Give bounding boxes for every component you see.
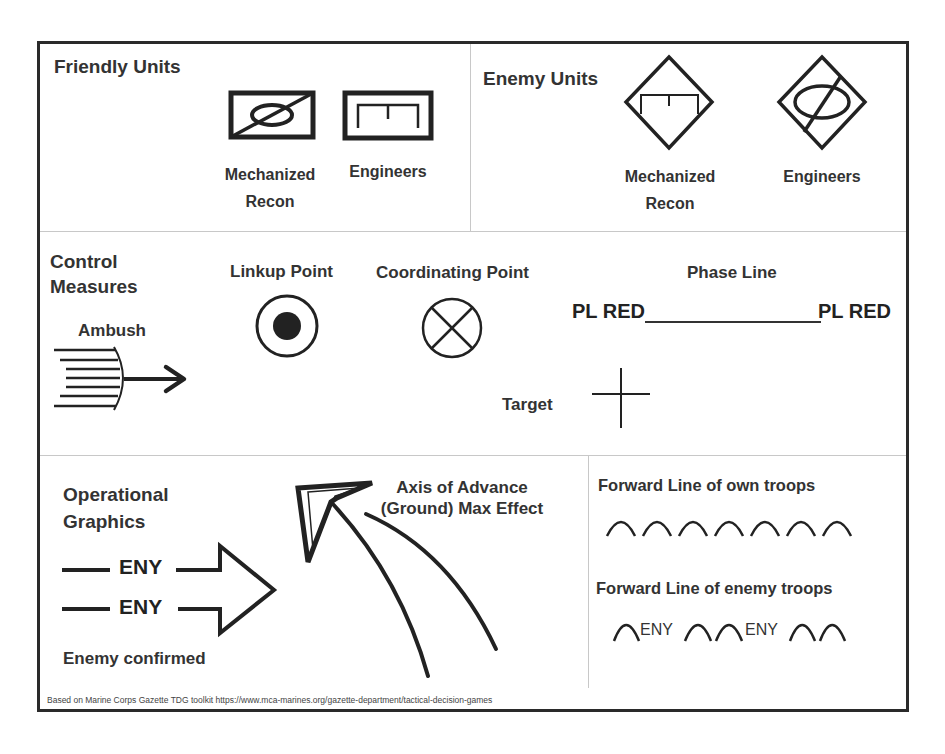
friendly-mech-recon-label-1: Mechanized — [208, 163, 332, 186]
control-measures-heading-2: Measures — [50, 275, 138, 298]
enemy-mech-recon-label-2: Recon — [608, 192, 732, 215]
flot-enemy-label: Forward Line of enemy troops — [596, 577, 833, 600]
axis-of-advance-label-1: Axis of Advance — [362, 476, 562, 499]
enemy-units-heading: Enemy Units — [483, 67, 598, 90]
coordinating-point-icon — [421, 296, 483, 360]
enemy-mech-recon-label-1: Mechanized — [608, 165, 732, 188]
ambush-icon — [52, 347, 202, 417]
coordinating-point-label: Coordinating Point — [376, 261, 529, 284]
operational-graphics-heading-1: Operational — [63, 483, 169, 506]
divider-horizontal-2 — [40, 455, 906, 456]
target-cross-icon — [590, 366, 652, 430]
linkup-point-label: Linkup Point — [230, 260, 333, 283]
flot-enemy-eny-tag-1: ENY — [640, 621, 673, 639]
eny-tag-2: ENY — [119, 595, 162, 619]
divider-top-vertical — [470, 44, 471, 232]
linkup-point-icon — [254, 293, 320, 359]
phase-line-left-tag: PL RED — [572, 300, 645, 323]
friendly-mechanized-recon-icon — [228, 90, 318, 140]
enemy-mechanized-recon-diamond-icon — [623, 54, 715, 154]
flot-enemy-eny-tag-2: ENY — [745, 621, 778, 639]
enemy-engineers-diamond-icon — [776, 54, 868, 154]
eny-tag-1: ENY — [119, 555, 162, 579]
divider-bottom-vertical — [588, 456, 589, 688]
enemy-confirmed-label: Enemy confirmed — [63, 647, 206, 670]
flot-own-troops-icon — [605, 512, 855, 542]
phase-line-label: Phase Line — [687, 261, 777, 284]
operational-graphics-heading-2: Graphics — [63, 510, 145, 533]
friendly-units-heading: Friendly Units — [54, 55, 181, 78]
phase-line-right-tag: PL RED — [818, 300, 891, 323]
friendly-mech-recon-label-2: Recon — [208, 190, 332, 213]
friendly-engineers-icon — [342, 90, 436, 140]
phase-line-icon — [645, 321, 821, 323]
target-label: Target — [502, 393, 553, 416]
source-footer: Based on Marine Corps Gazette TDG toolki… — [47, 695, 492, 705]
control-measures-heading-1: Control — [50, 250, 118, 273]
enemy-confirmed-arrow-icon — [62, 543, 292, 643]
divider-horizontal-1 — [40, 231, 906, 232]
axis-of-advance-label-2: (Ground) Max Effect — [362, 497, 562, 520]
flot-own-label: Forward Line of own troops — [598, 474, 815, 497]
enemy-engineers-label: Engineers — [772, 165, 872, 188]
ambush-label: Ambush — [78, 319, 146, 342]
friendly-engineers-label: Engineers — [338, 160, 438, 183]
